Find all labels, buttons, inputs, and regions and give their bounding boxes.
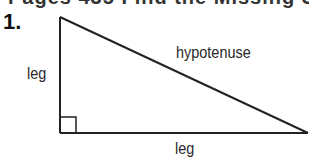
right-angle-marker [60, 117, 76, 133]
hypotenuse-line [60, 17, 308, 133]
vertical-leg-label: leg [27, 64, 46, 84]
horizontal-leg-label: leg [175, 139, 194, 159]
hypotenuse-label: hypotenuse [176, 43, 251, 63]
right-triangle-diagram [0, 0, 309, 164]
